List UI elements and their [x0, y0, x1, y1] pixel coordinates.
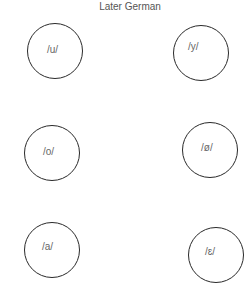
node-a-label: /a/ [42, 241, 53, 252]
node-o: /o/ [24, 125, 80, 181]
node-y: /y/ [173, 25, 229, 81]
node-y-label: /y/ [188, 41, 199, 52]
node-u-label: /u/ [47, 44, 58, 55]
node-e: /ɛ/ [188, 227, 244, 283]
node-a: /a/ [24, 222, 80, 278]
node-e-label: /ɛ/ [205, 246, 215, 257]
node-o-label: /o/ [43, 146, 54, 157]
node-oe: /ø/ [182, 122, 238, 178]
diagram-title: Later German [96, 1, 164, 12]
node-u: /u/ [27, 23, 83, 79]
node-oe-label: /ø/ [201, 142, 213, 153]
